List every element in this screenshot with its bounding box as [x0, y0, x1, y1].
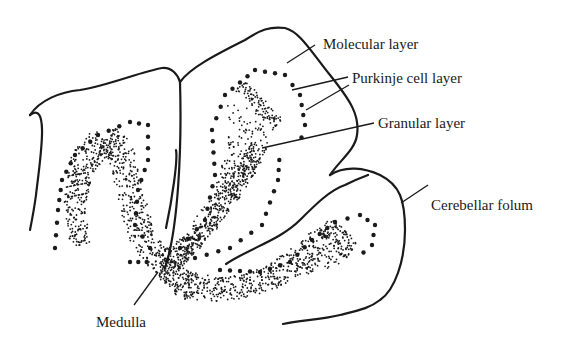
folium-outline — [283, 169, 405, 324]
label-purkinje-cell-layer: Purkinje cell layer — [352, 71, 462, 86]
label-medulla: Medulla — [96, 315, 146, 330]
folium-leader — [401, 185, 428, 203]
medulla-leader — [134, 272, 158, 305]
purkinje-leader-2 — [306, 85, 349, 110]
molecular-leader — [287, 45, 315, 63]
cerebellum-diagram: Molecular layer Purkinje cell layer Gran… — [0, 0, 578, 341]
diagram-drawing — [0, 0, 578, 341]
granular-layer-stipple — [64, 82, 357, 302]
left-lobe-outline — [30, 68, 180, 268]
left-lobe-left-edge — [30, 113, 42, 230]
purkinje-cell-dots — [53, 68, 377, 274]
label-cerebellar-folum: Cerebellar folum — [431, 198, 533, 213]
label-molecular-layer: Molecular layer — [323, 37, 418, 52]
label-granular-layer: Granular layer — [378, 116, 465, 131]
